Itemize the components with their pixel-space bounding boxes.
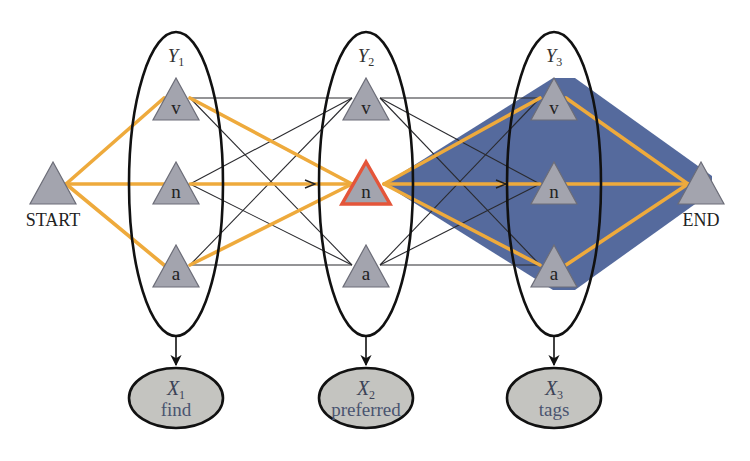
- state-label-y3-a: a: [550, 263, 559, 284]
- observation-x2: X2 preferred: [319, 368, 413, 428]
- observation-word: find: [161, 399, 192, 420]
- observation-x3: X3 tags: [507, 368, 601, 428]
- state-label-y1-a: a: [172, 263, 181, 284]
- column-label-y2: Y2: [358, 45, 375, 69]
- transitions-y1-y2: [190, 98, 352, 265]
- observation-word: preferred: [331, 399, 401, 420]
- column-label-y1: Y1: [168, 45, 185, 69]
- state-label-y3-n: n: [549, 181, 559, 202]
- observation-word: tags: [539, 399, 570, 420]
- viterbi-lattice-figure: Y1 Y2 Y3 START END v n a v n a v n: [0, 0, 750, 461]
- state-label-y1-n: n: [171, 181, 181, 202]
- state-label-y2-n: n: [361, 181, 371, 202]
- state-label-y2-v: v: [361, 97, 371, 118]
- observation-x1: X1 find: [129, 368, 223, 428]
- start-node: START: [26, 162, 80, 230]
- state-label-y2-a: a: [362, 263, 371, 284]
- end-label: END: [683, 210, 720, 230]
- state-label-y1-v: v: [171, 97, 181, 118]
- state-label-y3-v: v: [549, 97, 559, 118]
- column-label-y3: Y3: [546, 45, 563, 69]
- start-label: START: [26, 210, 80, 230]
